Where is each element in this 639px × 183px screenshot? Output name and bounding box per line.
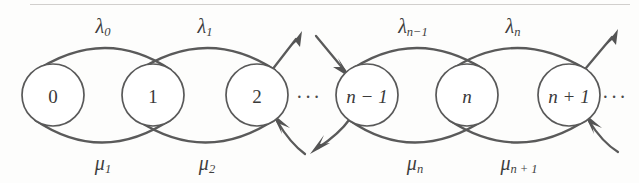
state-label-n: n — [462, 86, 472, 107]
state-node-0[interactable]: 0 — [22, 64, 84, 126]
rate-label-mu-1: μ1 — [94, 152, 111, 176]
rate-label-mu-n-plus-1: μn + 1 — [499, 152, 537, 176]
state-label-n-minus-1: n − 1 — [346, 86, 387, 107]
death-rate-labels: μ1 μ2 μn μn + 1 — [94, 152, 538, 176]
state-label-1: 1 — [148, 86, 158, 107]
death-transition-arcs — [29, 114, 589, 143]
stub-out-up-right-from-2 — [272, 31, 302, 70]
rate-label-lambda-n-minus-1: λn−1 — [397, 15, 428, 39]
state-node-n-plus-1[interactable]: n + 1 — [538, 64, 600, 126]
state-label-0: 0 — [48, 86, 58, 107]
state-label-n-plus-1: n + 1 — [548, 86, 589, 107]
state-node-n[interactable]: n — [436, 64, 498, 126]
stub-out-up-right-from-n1 — [586, 29, 618, 68]
state-node-2[interactable]: 2 — [226, 64, 288, 126]
stub-out-low-left-from-n-1 — [310, 120, 349, 154]
birth-death-state-diagram: 0 1 2 n − 1 n n + 1 — [0, 0, 639, 183]
rate-label-lambda-1: λ1 — [197, 15, 213, 39]
state-node-n-minus-1[interactable]: n − 1 — [336, 64, 398, 126]
rate-label-lambda-0: λ0 — [95, 15, 112, 39]
state-label-2: 2 — [252, 86, 262, 107]
rate-label-mu-2: μ2 — [198, 152, 215, 176]
state-node-1[interactable]: 1 — [122, 64, 184, 126]
rate-label-lambda-n: λn — [505, 15, 521, 39]
diagram-canvas: 0 1 2 n − 1 n n + 1 — [0, 0, 639, 183]
rate-label-mu-n: μn — [406, 152, 423, 176]
birth-rate-labels: λ0 λ1 λn−1 λn — [95, 15, 521, 39]
ellipsis-middle: ··· — [296, 86, 322, 108]
ellipsis-right: ··· — [602, 86, 628, 108]
birth-transition-arcs — [31, 48, 593, 76]
